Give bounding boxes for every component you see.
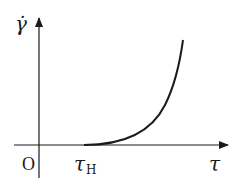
origin-label: O (22, 155, 35, 173)
diagram-canvas: γ̇ O τH τ (0, 0, 239, 192)
y-axis-label: γ̇ (15, 14, 27, 34)
threshold-label: τH (74, 154, 97, 176)
threshold-symbol: τ (74, 152, 85, 176)
plot-svg (0, 0, 239, 192)
threshold-subscript: H (86, 163, 96, 177)
x-axis-label: τ (209, 154, 220, 174)
response-curve (84, 40, 183, 145)
